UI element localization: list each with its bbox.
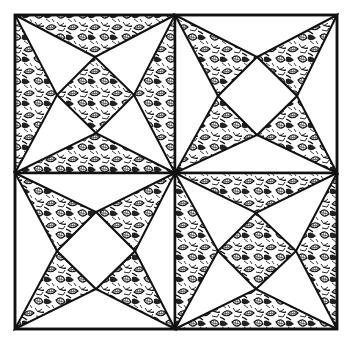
quadrant-bottom-right [175, 173, 337, 329]
quadrant-bottom-left [15, 173, 175, 329]
quadrant-top-right [175, 15, 337, 173]
quadrant-top-left [15, 15, 175, 173]
quilt-block-illustration [0, 0, 350, 339]
